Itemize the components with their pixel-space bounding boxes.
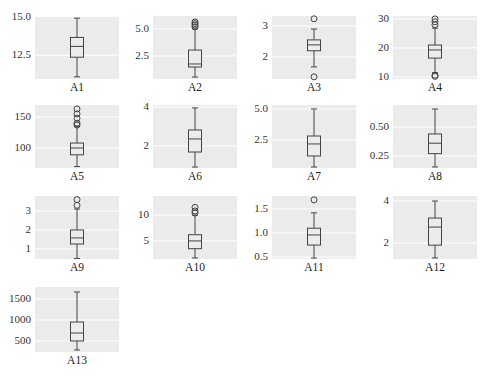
- boxplot-a9: [35, 196, 119, 259]
- y-tick-label: 2: [353, 237, 389, 248]
- x-axis-label: A6: [153, 170, 237, 182]
- subplot-a13: [35, 287, 119, 352]
- y-tick-label: 0.25: [353, 150, 389, 161]
- y-tick-label: 2.5: [113, 50, 149, 61]
- x-axis-label: A12: [393, 261, 477, 273]
- boxplot-a2: [153, 16, 237, 79]
- subplot-a6: [153, 105, 237, 168]
- boxplot-a5: [35, 105, 119, 168]
- boxplot-a3: [272, 16, 356, 79]
- subplot-a4: [393, 16, 477, 79]
- y-tick-label: 1.5: [232, 203, 268, 214]
- x-axis-label: A10: [153, 261, 237, 273]
- boxplot-a8: [393, 105, 477, 168]
- boxplot-a11: [272, 196, 356, 259]
- x-axis-label: A9: [35, 261, 119, 273]
- y-tick-label: 0.5: [232, 251, 268, 262]
- subplot-a12: [393, 196, 477, 259]
- y-tick-label: 20: [353, 42, 389, 53]
- subplot-a1: [35, 16, 119, 79]
- y-tick-label: 2: [232, 51, 268, 62]
- y-tick-label: 1500: [0, 293, 31, 304]
- y-tick-label: 2.5: [232, 134, 268, 145]
- y-tick-label: 3: [232, 20, 268, 31]
- y-tick-label: 150: [0, 111, 31, 122]
- subplot-a11: [272, 196, 356, 259]
- boxplot-a7: [272, 105, 356, 168]
- y-tick-label: 10: [353, 71, 389, 82]
- subplot-a2: [153, 16, 237, 79]
- x-axis-label: A13: [35, 354, 119, 366]
- y-tick-label: 5: [113, 235, 149, 246]
- y-tick-label: 1: [0, 243, 31, 254]
- boxplot-a1: [35, 16, 119, 79]
- subplot-a5: [35, 105, 119, 168]
- y-tick-label: 2: [0, 224, 31, 235]
- y-tick-label: 3: [0, 205, 31, 216]
- boxplot-a12: [393, 196, 477, 259]
- y-tick-label: 2: [113, 140, 149, 151]
- x-axis-label: A2: [153, 81, 237, 93]
- y-tick-label: 4: [113, 101, 149, 112]
- subplot-a9: [35, 196, 119, 259]
- boxplot-a13: [35, 287, 119, 352]
- boxplot-a6: [153, 105, 237, 168]
- y-tick-label: 5.0: [113, 23, 149, 34]
- y-tick-label: 1.0: [232, 227, 268, 238]
- x-axis-label: A8: [393, 170, 477, 182]
- y-tick-label: 500: [0, 335, 31, 346]
- subplot-a7: [272, 105, 356, 168]
- subplot-a10: [153, 196, 237, 259]
- y-tick-label: 10: [113, 209, 149, 220]
- subplot-a8: [393, 105, 477, 168]
- x-axis-label: A1: [35, 81, 119, 93]
- y-tick-label: 100: [0, 142, 31, 153]
- y-tick-label: 1000: [0, 314, 31, 325]
- boxplot-a4: [393, 16, 477, 79]
- y-tick-label: 0.50: [353, 121, 389, 132]
- y-tick-label: 5.0: [232, 103, 268, 114]
- boxplot-a10: [153, 196, 237, 259]
- x-axis-label: A3: [272, 81, 356, 93]
- x-axis-label: A4: [393, 81, 477, 93]
- y-tick-label: 4: [353, 195, 389, 206]
- subplot-a3: [272, 16, 356, 79]
- y-tick-label: 12.5: [0, 49, 31, 60]
- x-axis-label: A11: [272, 261, 356, 273]
- y-tick-label: 15.0: [0, 11, 31, 22]
- x-axis-label: A7: [272, 170, 356, 182]
- y-tick-label: 30: [353, 13, 389, 24]
- x-axis-label: A5: [35, 170, 119, 182]
